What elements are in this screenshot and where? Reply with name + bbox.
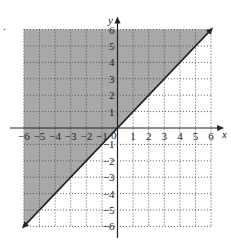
y-tick-label: 4 <box>109 56 115 68</box>
y-tick-label: −3 <box>103 171 115 183</box>
y-tick-label: −2 <box>103 155 115 167</box>
x-tick-label: 6 <box>208 130 214 142</box>
y-axis-arrow-icon <box>115 17 121 24</box>
x-tick-label: −6 <box>18 130 30 142</box>
x-tick-label: 3 <box>162 130 168 142</box>
x-tick-label: 4 <box>177 130 183 142</box>
y-tick-label: 3 <box>109 73 115 85</box>
x-tick-label: 2 <box>146 130 152 142</box>
x-tick-label: −3 <box>65 130 77 142</box>
corner-marker: . <box>3 21 6 32</box>
y-tick-label: −4 <box>103 188 115 200</box>
inequality-graph: . −6−5−4−3−2−1123456−6−5−4−3−2−11234560 … <box>0 0 231 245</box>
origin-label: 0 <box>111 129 117 141</box>
x-tick-label: −2 <box>80 130 92 142</box>
y-tick-label: 1 <box>109 106 115 118</box>
y-axis-label: y <box>107 14 113 26</box>
y-tick-label: 5 <box>109 40 115 52</box>
y-tick-label: −6 <box>103 220 115 232</box>
x-tick-label: −4 <box>49 130 61 142</box>
x-tick-label: −5 <box>34 130 46 142</box>
x-axis-label: x <box>221 128 227 140</box>
x-tick-label: 1 <box>130 130 136 142</box>
y-tick-label: 2 <box>109 89 115 101</box>
x-tick-label: 5 <box>193 130 199 142</box>
y-tick-label: −5 <box>103 204 115 216</box>
